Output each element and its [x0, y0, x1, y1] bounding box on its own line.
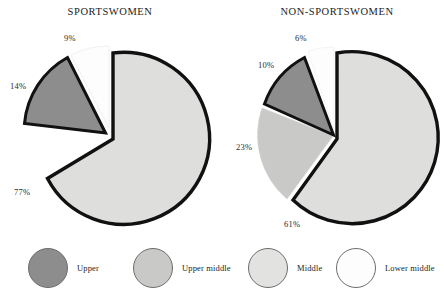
pie-label-non-sportswomen-6: 6%	[295, 33, 307, 43]
chart-panel-non-sportswomen: NON-SPORTSWOMEN 6% 10% 23% 61%	[222, 0, 444, 238]
legend-item-upper-middle[interactable]: Upper middle	[133, 246, 231, 290]
legend-item-lower-middle[interactable]: Lower middle	[336, 246, 435, 290]
pie-label-non-sportswomen-10: 10%	[258, 60, 274, 70]
legend-swatch-upper-middle	[133, 248, 173, 288]
pie-label-non-sportswomen-23: 23%	[236, 142, 252, 152]
pie-chart-sportswomen	[0, 0, 222, 238]
pie-chart-non-sportswomen	[222, 0, 444, 238]
pie-svg-sportswomen	[0, 0, 222, 238]
legend-label-upper-middle: Upper middle	[182, 263, 231, 273]
pie-label-non-sportswomen-61: 61%	[284, 219, 300, 229]
legend-swatch-lower-middle	[336, 248, 376, 288]
legend-item-upper[interactable]: Upper	[28, 246, 99, 290]
legend-swatch-upper	[28, 248, 68, 288]
pie-label-sportswomen-14: 14%	[10, 81, 26, 91]
legend-label-upper: Upper	[77, 263, 99, 273]
chart-legend: Upper Upper middle Middle Lower middle	[0, 238, 444, 298]
pie-label-sportswomen-77: 77%	[14, 187, 30, 197]
legend-label-lower-middle: Lower middle	[385, 263, 435, 273]
pie-label-sportswomen-9: 9%	[64, 33, 76, 43]
legend-item-middle[interactable]: Middle	[248, 246, 322, 290]
legend-label-middle: Middle	[297, 263, 322, 273]
chart-panel-sportswomen: SPORTSWOMEN 9% 14% 77%	[0, 0, 222, 238]
legend-swatch-middle	[248, 248, 288, 288]
pie-svg-non-sportswomen	[222, 0, 444, 238]
